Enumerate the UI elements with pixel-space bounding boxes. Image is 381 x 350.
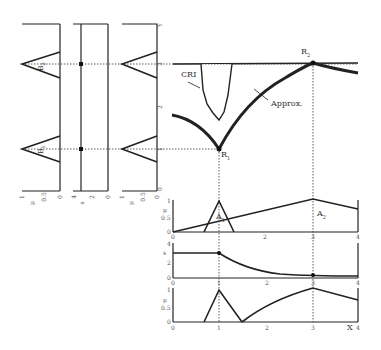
b2-label: B2 [37, 62, 47, 71]
x-tick-2-b: 2 [265, 280, 269, 286]
fuzzy-interpolation-figure: CRI Approx. R1 R2 Y 3 2 1 0 B2 B1 1 0.5 … [0, 0, 381, 350]
x-tick-2-c: 2 [265, 325, 269, 331]
left-panel-s [73, 24, 108, 191]
point-r2 [311, 61, 316, 66]
y-tick-2: 2 [157, 105, 163, 109]
b1-sub: 1 [40, 145, 46, 148]
b1-text: B [36, 148, 45, 154]
left-panel-mu [122, 24, 157, 191]
a2-label: A2 [317, 210, 326, 220]
bp3-y-label: μ [163, 297, 167, 303]
b1-label: B1 [37, 145, 47, 154]
r1-label: R1 [221, 151, 230, 161]
bottom-panel-s [173, 243, 358, 278]
cri-label: CRI [181, 71, 196, 79]
a1-label: A1 [216, 213, 225, 223]
bottom-panel-membership-a [173, 199, 358, 232]
lp2-tick-4: 4 [71, 195, 77, 199]
x-tick-0-b: 0 [171, 280, 175, 286]
bp1-y-label: μ [163, 207, 167, 213]
b2-sub: 2 [40, 62, 46, 65]
figure-svg [0, 0, 381, 350]
x-tick-0-a: 0 [171, 234, 175, 240]
x-tick-3-c: 3 [311, 325, 315, 331]
x-tick-4-a: 4 [356, 234, 360, 240]
x-tick-4-c: 4 [356, 325, 360, 331]
lp2-tick-0: 0 [105, 195, 111, 199]
x-tick-2-a: 2 [263, 234, 267, 240]
lp1-tick-1: 1 [19, 195, 25, 199]
x-axis-label: X [347, 324, 353, 332]
r2-sub: 2 [307, 52, 310, 58]
approx-label: Approx. [271, 100, 303, 108]
x-tick-1-c: 1 [217, 325, 221, 331]
point-s-upper [79, 62, 83, 66]
point-s-at-3 [311, 273, 315, 277]
x-tick-3-a: 3 [311, 234, 315, 240]
y-tick-0: 0 [157, 187, 163, 191]
main-plot [172, 63, 358, 149]
lp2-tick-2: 2 [89, 195, 95, 199]
a1-sub: 1 [222, 217, 225, 223]
x-tick-3-b: 3 [311, 280, 315, 286]
lp3-tick-05: 0.5 [140, 192, 146, 202]
point-s-at-1 [217, 251, 221, 255]
bp1-tick-1: 1 [167, 198, 171, 204]
x-tick-4-b: 4 [356, 280, 360, 286]
bp2-tick-2: 2 [167, 260, 171, 266]
bp2-tick-4: 4 [167, 241, 171, 247]
lp3-axis-label: μ [128, 201, 134, 205]
x-tick-0-c: 0 [171, 325, 175, 331]
r2-label: R2 [301, 48, 310, 58]
bp1-tick-05: 0.5 [161, 215, 171, 221]
lp1-axis-label: μ [29, 201, 35, 205]
bottom-panel-combined [173, 288, 358, 322]
a2-sub: 2 [323, 214, 326, 220]
bp2-y-label: s [163, 250, 166, 256]
y-tick-1: 1 [157, 147, 163, 151]
lp3-tick-0: 0 [154, 195, 160, 199]
x-tick-1-b: 1 [217, 280, 221, 286]
r1-sub: 1 [227, 155, 230, 161]
left-panel-b [22, 24, 60, 191]
lp1-tick-05: 0.5 [41, 192, 47, 202]
y-tick-3: 3 [157, 62, 163, 66]
lp3-tick-1: 1 [119, 195, 125, 199]
lp1-tick-0: 0 [57, 195, 63, 199]
lp2-axis-label: s [79, 201, 85, 204]
bp3-tick-05: 0.5 [161, 305, 171, 311]
b2-text: B [36, 65, 45, 71]
y-axis-label: Y [157, 23, 163, 27]
point-s-lower [79, 147, 83, 151]
bp3-tick-1: 1 [167, 287, 171, 293]
